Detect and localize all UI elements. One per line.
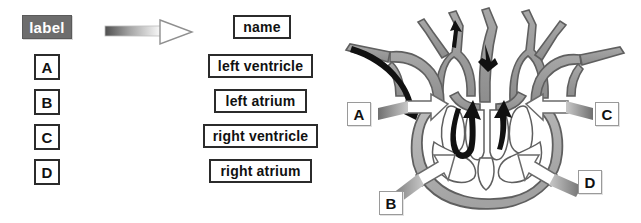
name-box-right-ventricle-text: right ventricle bbox=[213, 128, 309, 144]
name-box-left-ventricle-text: left ventricle bbox=[218, 58, 303, 74]
callout-leader-c bbox=[566, 101, 593, 120]
label-box-d[interactable]: D bbox=[34, 159, 60, 185]
label-box-c-text: C bbox=[41, 129, 52, 146]
label-column-header-text: label bbox=[29, 19, 65, 36]
name-column-header-text: name bbox=[243, 19, 280, 35]
label-box-a[interactable]: A bbox=[34, 54, 60, 80]
label-column-header: label bbox=[22, 15, 72, 39]
heart-callout-a-text: A bbox=[353, 106, 364, 123]
right-arrow-icon bbox=[104, 18, 194, 46]
heart-callout-c-text: C bbox=[601, 106, 612, 123]
name-box-right-ventricle[interactable]: right ventricle bbox=[203, 124, 318, 148]
heart-diagram: A B C D bbox=[330, 0, 641, 223]
callout-leader-a bbox=[378, 101, 408, 120]
name-box-left-atrium[interactable]: left atrium bbox=[214, 89, 307, 113]
label-box-c[interactable]: C bbox=[34, 124, 60, 150]
heart-callout-d[interactable]: D bbox=[578, 170, 602, 194]
heart-callout-b[interactable]: B bbox=[379, 191, 403, 215]
heart-callout-b-text: B bbox=[385, 195, 396, 212]
name-box-right-atrium[interactable]: right atrium bbox=[209, 159, 312, 183]
heart-callout-d-text: D bbox=[584, 174, 595, 191]
right-arrow-icon-svg bbox=[104, 18, 194, 46]
name-column-header: name bbox=[233, 15, 291, 39]
name-box-right-atrium-text: right atrium bbox=[220, 163, 300, 179]
label-box-b-text: B bbox=[41, 94, 52, 111]
heart-callout-c[interactable]: C bbox=[595, 102, 619, 126]
label-box-a-text: A bbox=[41, 59, 52, 76]
heart-callout-a[interactable]: A bbox=[347, 102, 371, 126]
label-box-b[interactable]: B bbox=[34, 89, 60, 115]
name-box-left-ventricle[interactable]: left ventricle bbox=[208, 54, 313, 78]
name-box-left-atrium-text: left atrium bbox=[226, 93, 296, 109]
label-box-d-text: D bbox=[41, 164, 52, 181]
